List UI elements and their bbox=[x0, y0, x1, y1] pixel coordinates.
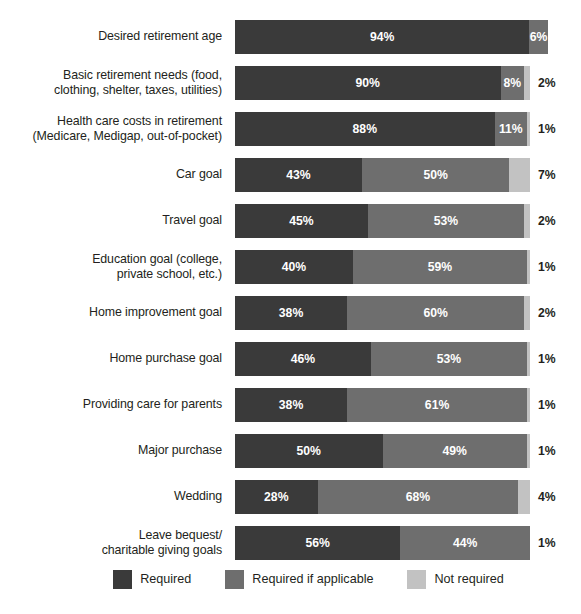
row-label-line: Home improvement goal bbox=[89, 305, 222, 321]
row-label-line: Major purchase bbox=[138, 443, 222, 459]
bar-segment-value: 53% bbox=[437, 352, 461, 366]
bar-segment-value: 8% bbox=[503, 76, 521, 90]
legend-swatch-icon bbox=[113, 570, 132, 589]
outside-value-label: 4% bbox=[538, 480, 556, 514]
legend-label: Not required bbox=[434, 572, 503, 586]
bar-segment-value: 94% bbox=[370, 30, 394, 44]
outside-value-label: 1% bbox=[538, 388, 556, 422]
bar-segment-value: 53% bbox=[434, 214, 458, 228]
legend-label: Required bbox=[140, 572, 191, 586]
bar-segment-required-if: 49% bbox=[383, 434, 528, 468]
chart-row: Providing care for parents38%61%1% bbox=[0, 382, 581, 428]
stacked-bar: 90%8% bbox=[235, 66, 530, 100]
row-label: Car goal bbox=[0, 152, 222, 198]
chart-row: Home purchase goal46%53%1% bbox=[0, 336, 581, 382]
row-label: Education goal (college,private school, … bbox=[0, 244, 222, 290]
bar-segment-value: 61% bbox=[425, 398, 449, 412]
stacked-bar-chart: Desired retirement age94%6%Basic retirem… bbox=[0, 0, 581, 560]
row-label-line: Travel goal bbox=[162, 213, 222, 229]
bar-segment-required: 43% bbox=[235, 158, 362, 192]
bar-segment-not-required bbox=[527, 112, 530, 146]
bar-segment-value: 68% bbox=[406, 490, 430, 504]
row-label: Travel goal bbox=[0, 198, 222, 244]
bar-segment-required: 38% bbox=[235, 388, 347, 422]
outside-value-label: 2% bbox=[538, 66, 556, 100]
row-label-line: Wedding bbox=[174, 489, 222, 505]
legend-swatch-icon bbox=[407, 570, 426, 589]
bar-segment-value: 90% bbox=[356, 76, 380, 90]
bar-segment-not-required bbox=[527, 250, 530, 284]
bar-segment-value: 60% bbox=[423, 306, 447, 320]
chart-row: Education goal (college,private school, … bbox=[0, 244, 581, 290]
bar-segment-not-required bbox=[524, 296, 530, 330]
bar-segment-value: 46% bbox=[291, 352, 315, 366]
bar-segment-required: 46% bbox=[235, 342, 371, 376]
outside-value-label: 2% bbox=[538, 204, 556, 238]
bar-segment-required: 45% bbox=[235, 204, 368, 238]
bar-segment-value: 38% bbox=[279, 306, 303, 320]
row-label: Home improvement goal bbox=[0, 290, 222, 336]
chart-row: Wedding28%68%4% bbox=[0, 474, 581, 520]
outside-value-label: 2% bbox=[538, 296, 556, 330]
bar-segment-value: 11% bbox=[499, 122, 523, 136]
stacked-bar: 46%53% bbox=[235, 342, 530, 376]
bar-segment-not-required bbox=[527, 342, 530, 376]
bar-segment-required: 90% bbox=[235, 66, 501, 100]
bar-segment-required-if: 6% bbox=[529, 20, 548, 54]
bar-segment-not-required bbox=[524, 204, 530, 238]
bar-segment-value: 38% bbox=[279, 398, 303, 412]
bar-segment-required-if: 8% bbox=[501, 66, 525, 100]
bar-segment-required-if: 59% bbox=[353, 250, 527, 284]
row-label: Leave bequest/charitable giving goals bbox=[0, 520, 222, 566]
row-label: Home purchase goal bbox=[0, 336, 222, 382]
row-label-line: clothing, shelter, taxes, utilities) bbox=[54, 83, 222, 99]
bar-segment-required-if: 61% bbox=[347, 388, 527, 422]
bar-segment-required: 40% bbox=[235, 250, 353, 284]
outside-value-label: 1% bbox=[538, 434, 556, 468]
bar-segment-value: 50% bbox=[423, 168, 447, 182]
legend-item: Required if applicable bbox=[225, 570, 373, 589]
stacked-bar: 45%53% bbox=[235, 204, 530, 238]
bar-segment-required-if: 53% bbox=[371, 342, 527, 376]
row-label-line: Health care costs in retirement bbox=[57, 114, 222, 130]
outside-value-label: 1% bbox=[538, 526, 556, 560]
stacked-bar: 40%59% bbox=[235, 250, 530, 284]
bar-segment-required: 94% bbox=[235, 20, 529, 54]
chart-row: Health care costs in retirement(Medicare… bbox=[0, 106, 581, 152]
bar-segment-required: 50% bbox=[235, 434, 383, 468]
row-label: Desired retirement age bbox=[0, 14, 222, 60]
chart-legend: RequiredRequired if applicableNot requir… bbox=[0, 566, 581, 592]
outside-value-label: 1% bbox=[538, 250, 556, 284]
bar-segment-value: 44% bbox=[453, 536, 477, 550]
bar-segment-required-if: 44% bbox=[400, 526, 530, 560]
row-label-line: Education goal (college, bbox=[92, 252, 222, 268]
stacked-bar: 88%11% bbox=[235, 112, 530, 146]
chart-row: Desired retirement age94%6% bbox=[0, 14, 581, 60]
bar-segment-value: 40% bbox=[282, 260, 306, 274]
bar-segment-value: 45% bbox=[289, 214, 313, 228]
bar-segment-value: 6% bbox=[530, 30, 548, 44]
row-label-line: Home purchase goal bbox=[109, 351, 222, 367]
chart-row: Travel goal45%53%2% bbox=[0, 198, 581, 244]
legend-label: Required if applicable bbox=[252, 572, 373, 586]
bar-segment-required-if: 11% bbox=[495, 112, 527, 146]
bar-segment-required: 28% bbox=[235, 480, 318, 514]
bar-segment-required-if: 53% bbox=[368, 204, 524, 238]
stacked-bar: 28%68% bbox=[235, 480, 530, 514]
outside-value-label: 7% bbox=[538, 158, 556, 192]
bar-segment-required: 88% bbox=[235, 112, 495, 146]
bar-segment-not-required bbox=[509, 158, 530, 192]
stacked-bar: 38%61% bbox=[235, 388, 530, 422]
bar-segment-required-if: 60% bbox=[347, 296, 524, 330]
stacked-bar: 94%6% bbox=[235, 20, 548, 54]
bar-segment-value: 28% bbox=[264, 490, 288, 504]
row-label-line: Leave bequest/ bbox=[139, 528, 222, 544]
legend-item: Required bbox=[113, 570, 191, 589]
outside-value-label: 1% bbox=[538, 342, 556, 376]
row-label: Health care costs in retirement(Medicare… bbox=[0, 106, 222, 152]
chart-row: Car goal43%50%7% bbox=[0, 152, 581, 198]
legend-item: Not required bbox=[407, 570, 503, 589]
row-label: Providing care for parents bbox=[0, 382, 222, 428]
bar-segment-value: 43% bbox=[286, 168, 310, 182]
row-label-line: Car goal bbox=[176, 167, 222, 183]
